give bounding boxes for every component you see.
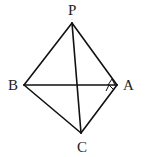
edge-pa [72, 23, 117, 85]
label-b: B [8, 77, 18, 93]
edge-ac [81, 85, 117, 133]
edge-pb [24, 23, 72, 85]
label-a: A [123, 77, 134, 93]
edge-bc [24, 85, 81, 133]
label-p: P [68, 2, 76, 18]
tetrahedron-diagram: P B A C [0, 0, 146, 157]
edge-pc [72, 23, 81, 133]
label-c: C [77, 139, 87, 155]
